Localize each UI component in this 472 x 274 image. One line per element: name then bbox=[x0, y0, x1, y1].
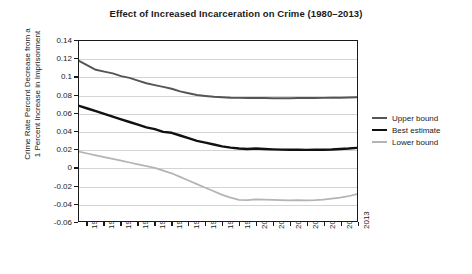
y-tick-mark bbox=[74, 222, 78, 223]
legend: Upper boundBest estimateLower bound bbox=[372, 112, 440, 148]
x-tick-mark bbox=[358, 222, 359, 226]
plot-area bbox=[78, 40, 358, 222]
legend-label: Best estimate bbox=[392, 126, 440, 135]
legend-item: Lower bound bbox=[372, 136, 440, 148]
legend-swatch bbox=[372, 117, 387, 119]
x-tick-mark bbox=[86, 222, 87, 226]
legend-swatch bbox=[372, 141, 387, 143]
legend-label: Lower bound bbox=[392, 138, 438, 147]
x-tick-mark bbox=[205, 222, 206, 226]
y-tick-label: 0 bbox=[38, 163, 72, 172]
legend-item: Best estimate bbox=[372, 124, 440, 136]
y-tick-label: 0.04 bbox=[38, 127, 72, 136]
y-tick-label: -0.06 bbox=[38, 218, 72, 227]
x-tick-mark bbox=[222, 222, 223, 226]
x-tick-mark bbox=[171, 222, 172, 226]
x-tick-mark bbox=[239, 222, 240, 226]
chart-title: Effect of Increased Incarceration on Cri… bbox=[0, 8, 472, 19]
legend-item: Upper bound bbox=[372, 112, 440, 124]
x-tick-mark bbox=[307, 222, 308, 226]
y-tick-label: 0.1 bbox=[38, 72, 72, 81]
series-line bbox=[79, 152, 357, 201]
chart-figure: Effect of Increased Incarceration on Cri… bbox=[0, 0, 472, 274]
x-tick-mark bbox=[103, 222, 104, 226]
y-tick-label: 0.14 bbox=[38, 36, 72, 45]
series-lines bbox=[79, 41, 357, 221]
legend-label: Upper bound bbox=[392, 114, 438, 123]
x-tick-mark bbox=[273, 222, 274, 226]
x-tick-mark bbox=[137, 222, 138, 226]
x-tick-mark bbox=[256, 222, 257, 226]
x-tick-mark bbox=[154, 222, 155, 226]
series-line bbox=[79, 106, 357, 150]
x-tick-mark bbox=[120, 222, 121, 226]
y-axis-title-line1: Crime Rate Percent Decrease from a bbox=[23, 0, 33, 189]
y-tick-label: 0.08 bbox=[38, 90, 72, 99]
y-tick-label: -0.02 bbox=[38, 181, 72, 190]
y-tick-label: 0.02 bbox=[38, 145, 72, 154]
x-tick-mark bbox=[290, 222, 291, 226]
x-tick-label: 2013 bbox=[362, 211, 371, 229]
x-tick-mark bbox=[324, 222, 325, 226]
x-tick-mark bbox=[188, 222, 189, 226]
y-tick-label: -0.04 bbox=[38, 199, 72, 208]
legend-swatch bbox=[372, 129, 387, 132]
series-line bbox=[79, 61, 357, 98]
y-tick-label: 0.12 bbox=[38, 54, 72, 63]
x-tick-mark bbox=[341, 222, 342, 226]
y-tick-label: 0.06 bbox=[38, 108, 72, 117]
